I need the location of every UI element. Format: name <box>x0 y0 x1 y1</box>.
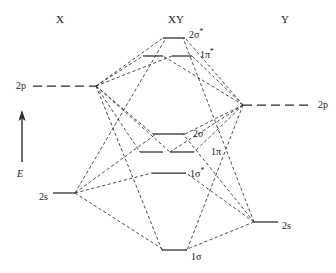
correlation-line <box>75 134 156 193</box>
column-header-right: Y <box>281 13 289 25</box>
atomic-orbital-label-left-2p: 2p <box>16 81 26 91</box>
molecular-orbital-label-1pi-star-superscript: * <box>210 47 214 56</box>
orbital-levels-group <box>33 38 313 250</box>
atomic-orbital-label-left-2s: 2s <box>39 192 48 202</box>
correlation-line <box>170 105 243 152</box>
molecular-orbital-label-1sigma: 1σ <box>191 252 201 262</box>
molecular-orbital-label-1pi: 1π <box>211 147 221 157</box>
correlation-line <box>96 86 153 134</box>
energy-axis-group <box>18 110 25 162</box>
correlation-line <box>96 56 172 86</box>
correlation-line <box>96 38 163 86</box>
correlation-line <box>186 173 254 222</box>
molecular-orbital-label-1sigma-star-superscript: * <box>200 166 204 175</box>
column-header-left: X <box>56 13 64 25</box>
column-header-center: XY <box>168 13 184 25</box>
molecular-orbital-label-2sigma-star: 2σ* <box>189 28 203 40</box>
atomic-orbital-label-right-2p: 2p <box>318 100 328 110</box>
correlation-line <box>96 86 162 250</box>
energy-axis-label: E <box>17 168 23 179</box>
molecular-orbital-label-1pi-star: 1π* <box>200 48 214 60</box>
mo-diagram-canvas: X XY Y E 2p2s2p2s2σ*1π*2σ1π1σ*1σ <box>0 0 336 273</box>
correlation-line <box>185 222 254 250</box>
atomic-orbital-label-right-2s: 2s <box>282 221 291 231</box>
correlation-line <box>75 38 166 193</box>
molecular-orbital-label-2sigma: 2σ <box>193 129 203 139</box>
correlation-lines-group <box>75 38 254 250</box>
correlation-line <box>96 56 143 86</box>
mo-diagram-svg <box>0 0 336 273</box>
molecular-orbital-label-1sigma-star: 1σ* <box>190 167 204 179</box>
correlation-line <box>75 173 152 193</box>
molecular-orbital-label-2sigma-star-superscript: * <box>199 27 203 36</box>
correlation-line <box>163 56 243 105</box>
correlation-line <box>185 38 243 105</box>
